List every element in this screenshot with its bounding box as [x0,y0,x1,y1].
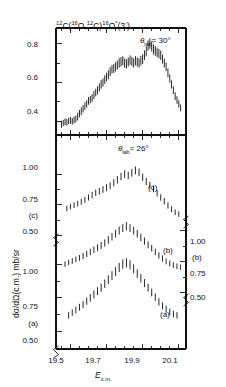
axis-curve-label-c-left: (c) [2,212,38,220]
x-axis-label: Ec.m. [95,371,112,380]
title-seg-c: C) [93,21,102,31]
ytick-label-bottom-left-2: 0.50 [2,228,38,236]
angle-label-top-panel: θlab= 30° [140,37,171,45]
ytick-label-bottom-left-5: 0.50 [2,337,38,345]
y-axis-label: dσ/dΩ(c.m.) mb/sr [12,249,21,318]
ytick-label-bottom-right-0: 1.00 [190,238,224,246]
plot-svg [0,0,226,387]
ytick-label-top-1: 0.6 [8,74,38,82]
axis-break-marker [184,216,189,228]
title-seg-paren: (3 [118,21,126,31]
data-series-theta30 [61,38,180,127]
title-seg-b: O, [78,21,87,31]
x-axis-label-sub: c.m. [101,376,112,382]
theta-value-bottom: = 26° [130,144,149,153]
curve-label-a: (a) [160,311,170,319]
plot-title: 12C(16O,12C)16O*(3-) [56,22,130,31]
ytick-label-top-2: 0.4 [8,108,38,116]
xtick-label-0: 19.5 [41,357,71,365]
curve-label-b: (b) [163,247,173,255]
title-seg-close: ) [127,21,130,31]
axis-break-marker [184,294,189,306]
ytick-label-bottom-left-1: 0.75 [2,196,38,204]
ytick-label-bottom-right-2: 0.50 [190,294,224,302]
ytick-label-bottom-right-1: 0.75 [190,270,224,278]
xtick-label-2: 19.9 [117,357,147,365]
theta-sub-bottom: lab [122,149,129,155]
ytick-label-bottom-left-0: 1.00 [2,164,38,172]
ytick-label-top-0: 0.8 [8,41,38,49]
theta-sub-top: lab [144,41,151,47]
axis-curve-label-a-left: (a) [2,320,38,328]
xtick-label-1: 19.7 [78,357,108,365]
angle-label-bottom-panel: θlab= 26° [118,145,149,153]
curve-label-c: (c) [148,184,157,192]
figure-container: 12C(16O,12C)16O*(3-) θlab= 30° θlab= 26°… [0,0,226,387]
theta-value-top: = 30° [152,36,171,45]
data-series-c [67,167,179,217]
axis-curve-label-b-right: (b) [192,254,226,262]
xtick-label-3: 20.1 [155,357,185,365]
